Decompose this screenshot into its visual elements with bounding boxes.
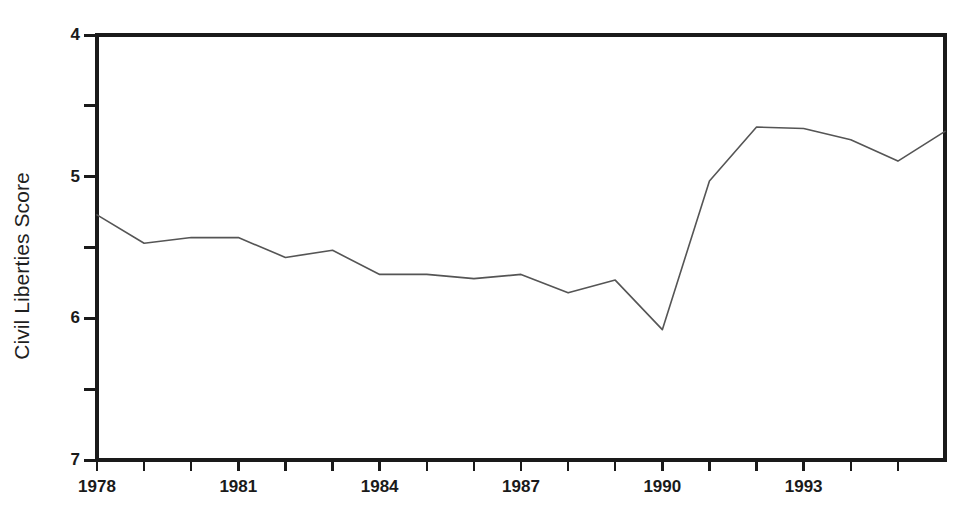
y-tick-label: 7 [38,450,80,470]
chart-figure: Civil Liberties Score 4567 1978198119841… [0,0,964,516]
y-tick-label: 6 [38,308,80,328]
y-tick-label: 4 [38,25,80,45]
x-tick-label: 1981 [219,477,257,497]
x-tick-label: 1990 [643,477,681,497]
plot-frame [97,35,945,460]
y-tick-label: 5 [38,167,80,187]
x-tick-label: 1987 [502,477,540,497]
x-tick-label: 1978 [78,477,116,497]
x-tick-label: 1984 [361,477,399,497]
x-tick-label: 1993 [785,477,823,497]
data-line-series [97,127,945,330]
line-chart-plot [0,0,964,516]
